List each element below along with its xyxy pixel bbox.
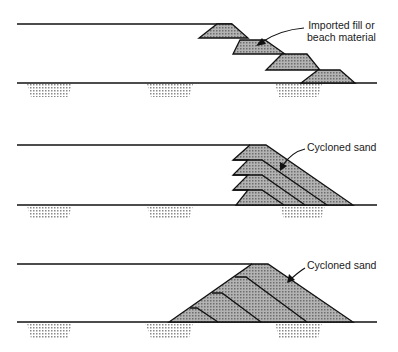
dam-construction-diagram <box>0 0 398 352</box>
label-imported-fill: Imported fill or beach material <box>307 19 376 43</box>
pit-middle <box>145 323 193 338</box>
fill-lift-3 <box>266 54 320 70</box>
pit-middle <box>147 84 193 97</box>
leader-arrow-1 <box>262 28 304 42</box>
panel-2 <box>17 145 377 219</box>
label-cycloned-sand-panel-2: Cycloned sand <box>307 141 376 153</box>
label-line-2: beach material <box>307 31 376 43</box>
fill-lift-1 <box>199 24 248 38</box>
label-text: Cycloned sand <box>307 141 376 153</box>
pit-middle <box>147 206 193 219</box>
fill-lift-4 <box>301 70 355 83</box>
pit-left <box>27 323 72 338</box>
pit-left <box>27 84 72 97</box>
cycloned-sand-body <box>169 264 353 322</box>
label-cycloned-sand-panel-3: Cycloned sand <box>307 259 376 271</box>
pit-right <box>280 206 325 219</box>
pit-left <box>27 206 72 219</box>
pit-right <box>275 323 322 338</box>
panel-3 <box>17 264 377 338</box>
label-text: Cycloned sand <box>307 259 376 271</box>
leader-arrow-3 <box>292 268 305 278</box>
pit-right <box>275 84 322 97</box>
label-line-1: Imported fill or <box>307 19 376 31</box>
